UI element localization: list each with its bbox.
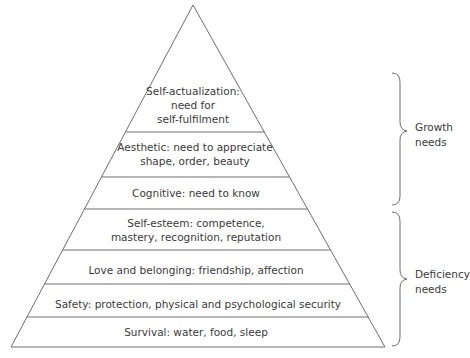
group-label-deficiency: Deficiency needs [415,267,470,297]
pyramid-outline [11,5,385,347]
level-survival: Survival: water, food, sleep [124,325,268,339]
level-aesthetic: Aesthetic: need to appreciate shape, ord… [117,140,272,168]
level-text-line: Self-actualization: [146,84,240,98]
growth-brace-icon [392,73,407,205]
level-text-line: Love and belonging: friendship, affectio… [88,263,303,277]
level-self-esteem: Self-esteem: competence, mastery, recogn… [111,216,281,244]
deficiency-brace-icon [392,212,407,346]
level-text-line: Aesthetic: need to appreciate [117,140,272,154]
group-label-growth: Growth needs [415,120,453,150]
level-cognitive: Cognitive: need to know [132,186,260,200]
group-label-line: needs [415,282,470,297]
level-love-belonging: Love and belonging: friendship, affectio… [88,263,303,277]
level-self-actualization: Self-actualization: need for self-fulfil… [146,84,240,126]
level-text-line: mastery, recognition, reputation [111,230,281,244]
group-label-line: Growth [415,120,453,135]
level-text-line: Survival: water, food, sleep [124,325,268,339]
group-label-line: needs [415,135,453,150]
group-label-line: Deficiency [415,267,470,282]
level-text-line: shape, order, beauty [117,154,272,168]
level-text-line: Safety: protection, physical and psychol… [55,297,341,311]
level-text-line: self-fulfilment [146,112,240,126]
level-text-line: Cognitive: need to know [132,186,260,200]
level-safety: Safety: protection, physical and psychol… [55,297,341,311]
level-text-line: Self-esteem: competence, [111,216,281,230]
level-text-line: need for [146,98,240,112]
